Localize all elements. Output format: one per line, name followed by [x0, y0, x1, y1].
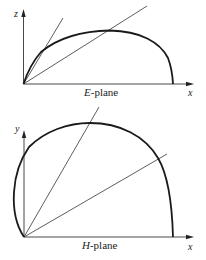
- h-plane-diagram: y x H-plane: [14, 107, 194, 252]
- h-plane-caption: H-plane: [81, 239, 118, 251]
- h-plane-y-arrow-icon: [22, 130, 26, 138]
- radiation-pattern-diagram: z x E-plane y x H-plane: [0, 0, 206, 260]
- e-plane-z-label: z: [13, 8, 18, 19]
- e-plane-pattern-curve: [24, 31, 174, 85]
- e-plane-shallow-ray: [24, 6, 148, 84]
- h-plane-steep-ray: [24, 107, 99, 237]
- e-plane-caption: E-plane: [83, 86, 118, 98]
- h-plane-x-arrow-icon: [186, 235, 194, 239]
- h-plane-shallow-ray: [24, 154, 167, 237]
- h-plane-y-label: y: [14, 123, 20, 134]
- h-plane-pattern-curve: [14, 123, 173, 237]
- e-plane-diagram: z x E-plane: [13, 6, 194, 98]
- h-plane-caption-rest: -plane: [90, 239, 118, 251]
- e-plane-x-label: x: [187, 87, 193, 98]
- h-plane-x-label: x: [187, 241, 193, 252]
- e-plane-z-arrow-icon: [21, 9, 25, 17]
- e-plane-caption-rest: -plane: [91, 86, 119, 98]
- e-plane-x-arrow-icon: [186, 82, 194, 86]
